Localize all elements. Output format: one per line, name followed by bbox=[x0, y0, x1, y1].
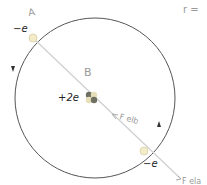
arrow-down-icon bbox=[11, 66, 15, 72]
label-force-inward: F elb bbox=[118, 112, 139, 126]
label-corner-note: r = bbox=[183, 4, 199, 15]
label-point-a: A bbox=[27, 6, 36, 18]
label-nucleus-charge: +2e bbox=[58, 92, 79, 103]
label-electron-a-charge: −e bbox=[13, 23, 28, 34]
nucleus bbox=[86, 92, 97, 103]
label-electron-b-charge: −e bbox=[143, 158, 158, 169]
label-force-outward: F ela bbox=[182, 177, 201, 185]
electron-b bbox=[140, 147, 148, 155]
axis-line bbox=[33, 38, 180, 178]
atom-orbit-diagram: A B −e +2e −e F elb F ela r = bbox=[0, 0, 207, 185]
force-outward-arrow-icon bbox=[176, 176, 181, 180]
label-point-b: B bbox=[84, 66, 92, 79]
arrow-up-icon bbox=[157, 121, 161, 127]
electron-a bbox=[29, 34, 37, 42]
